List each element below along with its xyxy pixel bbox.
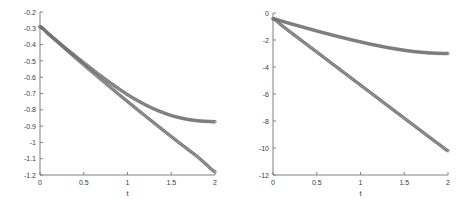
y-tick-label: -0.4 — [24, 41, 36, 48]
y-tick-label: -0.2 — [24, 9, 36, 16]
y-tick-label: -2 — [263, 37, 269, 44]
x-tick-label: 0 — [38, 179, 42, 186]
y-tick-label: -0.3 — [24, 25, 36, 32]
x-tick-label: 2 — [446, 179, 450, 186]
x-tick-label: 1.5 — [166, 179, 176, 186]
x-tick-label: 2 — [213, 179, 217, 186]
y-tick-label: 0 — [265, 10, 269, 17]
chart-panel-right: 0-2-4-6-8-10-1200.511.52t — [233, 0, 466, 199]
series-lower-curve — [272, 17, 450, 152]
y-tick-label: -6 — [263, 91, 269, 98]
x-axis-title: t — [126, 189, 129, 198]
y-tick-label: -1.2 — [24, 172, 36, 179]
y-tick-label: -0.9 — [24, 123, 36, 130]
x-axis-title: t — [359, 189, 362, 198]
series-upper-curve — [39, 25, 217, 123]
series-line — [40, 27, 215, 122]
y-tick-label: -1 — [30, 139, 36, 146]
series-lower-curve — [39, 25, 217, 173]
x-tick-label: 1 — [359, 179, 363, 186]
y-tick-label: -0.5 — [24, 58, 36, 65]
right-plot-canvas: 0-2-4-6-8-10-1200.511.52t — [233, 0, 466, 199]
chart-panel-left: -0.2-0.3-0.4-0.5-0.6-0.7-0.8-0.9-1-1.1-1… — [0, 0, 233, 199]
y-tick-label: -1.1 — [24, 155, 36, 162]
x-tick-label: 0 — [271, 179, 275, 186]
y-tick-label: -4 — [263, 64, 269, 71]
y-tick-label: -0.8 — [24, 106, 36, 113]
x-tick-label: 1 — [126, 179, 130, 186]
x-tick-label: 0.5 — [312, 179, 322, 186]
series-line — [273, 19, 448, 54]
x-tick-label: 1.5 — [399, 179, 409, 186]
x-tick-label: 0.5 — [79, 179, 89, 186]
left-plot-canvas: -0.2-0.3-0.4-0.5-0.6-0.7-0.8-0.9-1-1.1-1… — [0, 0, 233, 199]
y-tick-label: -8 — [263, 118, 269, 125]
figure-root: -0.2-0.3-0.4-0.5-0.6-0.7-0.8-0.9-1-1.1-1… — [0, 0, 466, 199]
y-tick-label: -10 — [259, 145, 269, 152]
y-tick-label: -0.6 — [24, 74, 36, 81]
y-tick-label: -0.7 — [24, 90, 36, 97]
y-tick-label: -12 — [259, 172, 269, 179]
